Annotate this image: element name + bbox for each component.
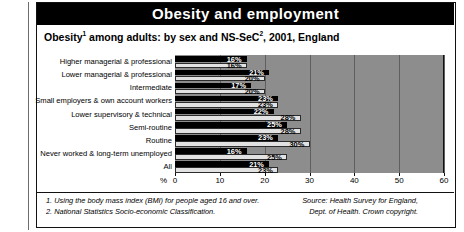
category-label: All bbox=[164, 160, 172, 173]
axis-tick-label: 50 bbox=[395, 176, 404, 185]
axis-tick-label: 10 bbox=[215, 176, 224, 185]
axis-tick-label: 20 bbox=[260, 176, 269, 185]
gridline bbox=[354, 55, 355, 173]
footnote-2: 2. National Statistics Socio-economic Cl… bbox=[46, 207, 259, 218]
source-note: Source: Health Survey for England, Dept.… bbox=[302, 196, 418, 217]
axis-tick-label: 60 bbox=[440, 176, 449, 185]
category-label: Never worked & long-term unemployed bbox=[40, 147, 172, 160]
category-label: Intermediate bbox=[130, 81, 172, 94]
footnote-1: 1. Using the body mass index (BMI) for p… bbox=[46, 196, 259, 207]
subtitle-part1: Obesity bbox=[44, 31, 83, 43]
chart-page: Obesity and employment Obesity1 among ad… bbox=[0, 0, 464, 232]
axis-tick-label: 0 bbox=[173, 176, 177, 185]
footnotes: 1. Using the body mass index (BMI) for p… bbox=[46, 196, 259, 217]
page-spine bbox=[0, 0, 30, 232]
category-axis: Higher managerial & professionalLower ma… bbox=[44, 55, 172, 173]
category-label: Semi-routine bbox=[129, 121, 172, 134]
category-label: Higher managerial & professional bbox=[60, 55, 172, 68]
footnote-divider bbox=[37, 192, 454, 193]
category-label: Lower managerial & professional bbox=[61, 68, 172, 81]
plot-wrapper: Higher managerial & professionalLower ma… bbox=[44, 55, 444, 183]
chart-subtitle: Obesity1 among adults: by sex and NS-SeC… bbox=[44, 30, 340, 43]
source-line-1: Source: Health Survey for England, bbox=[302, 196, 418, 207]
gridline bbox=[399, 55, 400, 173]
subtitle-part3: , 2001, England bbox=[263, 31, 339, 43]
axis-tick-label: 30 bbox=[305, 176, 314, 185]
page-title: Obesity and employment bbox=[37, 3, 454, 25]
category-label: Lower supervisory & technical bbox=[71, 108, 172, 121]
plot-area: Males Females 16%16%21%20%17%20%23%23%22… bbox=[175, 55, 444, 173]
bar-value-label: 30% bbox=[290, 140, 305, 149]
category-label: Small employers & own account workers bbox=[35, 94, 172, 107]
subtitle-part2: among adults: by sex and NS-SeC bbox=[86, 31, 259, 43]
gridline bbox=[310, 55, 311, 173]
bar-value-label: 25% bbox=[267, 153, 282, 162]
source-line-2: Dept. of Health. Crown copyright. bbox=[302, 207, 418, 218]
axis-unit-label: % bbox=[160, 176, 167, 185]
category-label: Routine bbox=[146, 134, 172, 147]
axis-tick-label: 40 bbox=[350, 176, 359, 185]
gridline bbox=[444, 55, 445, 173]
bar-value-label: 28% bbox=[281, 127, 296, 136]
value-axis: 0102030405060 bbox=[175, 173, 444, 189]
spine-divider bbox=[28, 2, 29, 230]
